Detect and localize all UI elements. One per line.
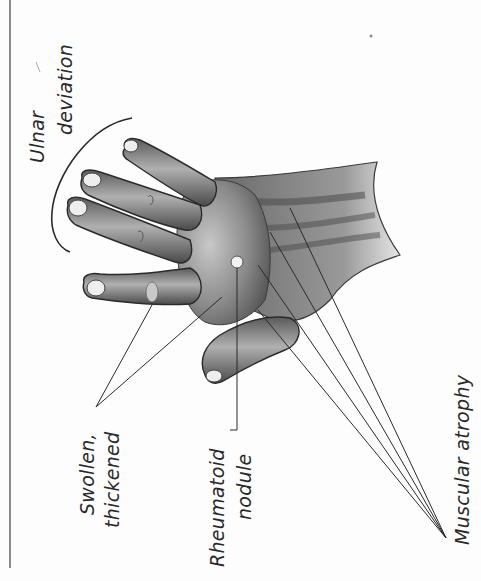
- label-deviation: deviation: [56, 44, 75, 135]
- label-nodule: nodule: [235, 453, 254, 520]
- label-muscular-atrophy: Muscular atrophy: [453, 375, 472, 545]
- rheumatoid-nodule: [231, 256, 243, 268]
- rheumatoid-hand-illustration: Ulnar deviation Swollen, thickened Rheum…: [0, 0, 481, 581]
- label-rheumatoid: Rheumatoid: [208, 448, 227, 567]
- label-ulnar: Ulnar: [28, 111, 47, 163]
- label-swollen: Swollen,: [78, 433, 97, 515]
- label-thickened: thickened: [103, 432, 122, 528]
